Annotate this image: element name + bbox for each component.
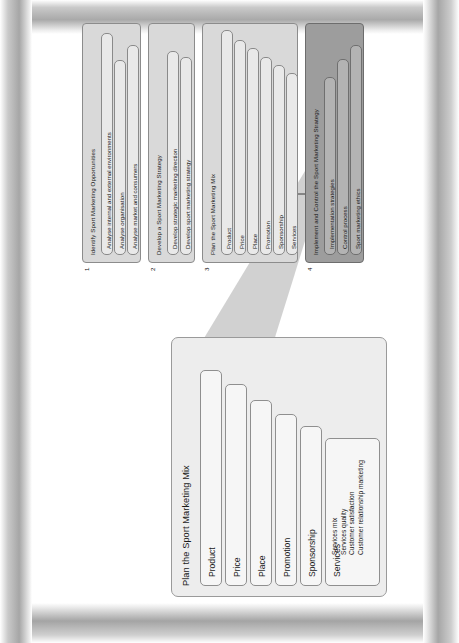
stage-3-number: 3: [203, 268, 210, 271]
diagram-canvas: Plan the Sport Marketing Mix Product Pri…: [29, 29, 459, 612]
stage-1-item-3-label: Analyse market and consumers: [131, 164, 138, 249]
stage-2-item-1[interactable]: Develop strategic marketing direction: [167, 51, 179, 255]
stage-3-item-services[interactable]: Services: [286, 73, 298, 255]
stage-3-item-place[interactable]: Place: [247, 48, 259, 255]
page-root: Plan the Sport Marketing Mix Product Pri…: [0, 0, 459, 643]
stage-1-number: 1: [83, 268, 90, 271]
stage-3-item-sponsorship-label: Sponsorship: [277, 215, 284, 249]
stage-4-number: 4: [306, 268, 313, 271]
stage-1-item-2[interactable]: Analyse organisation: [114, 60, 126, 255]
stage-2-title: Develop a Sport Marketing Strategy: [155, 155, 162, 255]
stage-2-item-2-label: Develop sport marketing strategy: [184, 160, 191, 249]
page-frame-left: [0, 0, 32, 643]
stage-2-item-2[interactable]: Develop sport marketing strategy: [180, 57, 192, 255]
stage-4-item-2[interactable]: Control process: [337, 59, 349, 255]
stage-4-item-3[interactable]: Sport marketing ethics: [350, 45, 362, 255]
stage-2-panel[interactable]: Develop a Sport Marketing Strategy Devel…: [148, 23, 195, 263]
stage-1-title: Identify Sport Marketing Opportunities: [89, 149, 96, 255]
stage-3-item-place-label: Place: [251, 234, 258, 249]
stage-4-item-1[interactable]: Implementation strategies: [324, 77, 336, 255]
stage-1-item-1[interactable]: Analyse internal and external environmen…: [101, 33, 113, 255]
stage-3-panel[interactable]: Plan the Sport Marketing Mix Product Pri…: [202, 23, 298, 263]
stage-4-item-1-label: Implementation strategies: [328, 179, 335, 249]
stage-1-item-3[interactable]: Analyse market and consumers: [127, 45, 139, 255]
stage-3-item-product-label: Product: [225, 228, 232, 249]
stage-4-panel[interactable]: Implement and Control the Sport Marketin…: [305, 23, 364, 263]
stage-1-panel[interactable]: Identify Sport Marketing Opportunities A…: [82, 23, 141, 263]
stage-4-title: Implement and Control the Sport Marketin…: [312, 109, 319, 255]
stage-3-item-promotion-label: Promotion: [264, 221, 271, 249]
stage-2-item-1-label: Develop strategic marketing direction: [171, 149, 178, 249]
stage-3-item-price[interactable]: Price: [234, 40, 246, 255]
stage-3-item-promotion[interactable]: Promotion: [260, 57, 272, 255]
stage-3-item-sponsorship[interactable]: Sponsorship: [273, 65, 285, 255]
stage-4-item-3-label: Sport marketing ethics: [354, 188, 361, 249]
stage-3-item-price-label: Price: [238, 235, 245, 249]
stage-1-item-1-label: Analyse internal and external environmen…: [105, 132, 112, 249]
stage-4-item-2-label: Control process: [341, 206, 348, 249]
stage-3-item-services-label: Services: [290, 226, 297, 249]
stage-1-item-2-label: Analyse organisation: [118, 192, 125, 249]
stage-3-title: Plan the Sport Marketing Mix: [209, 174, 216, 255]
stage-3-item-product[interactable]: Product: [221, 30, 233, 255]
stage-2-number: 2: [149, 268, 156, 271]
